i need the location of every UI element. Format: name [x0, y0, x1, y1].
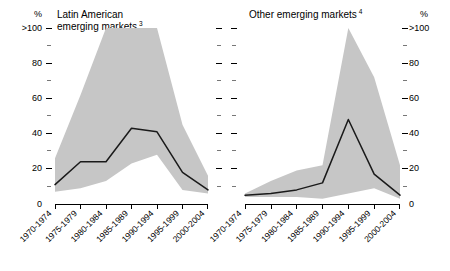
right-plot-area [245, 28, 400, 199]
right-axis-unit: % [420, 9, 428, 19]
left-xtick-labels: 1970-1974 1975-1979 1980-1984 1985-1989 … [18, 208, 207, 244]
left-ytick-40: 40 [32, 128, 42, 138]
left-ytick-60: 60 [32, 93, 42, 103]
left-range-band [55, 28, 208, 193]
right-ytick-80: 80 [409, 58, 419, 68]
left-ytick-20: 20 [32, 163, 42, 173]
left-axis-unit: % [34, 9, 42, 19]
right-ytick-gt100: >100 [409, 23, 429, 33]
right-ytick-marks [402, 28, 408, 186]
right-ytick-40: 40 [409, 128, 419, 138]
panel-left-title-footnote: 3 [139, 20, 143, 27]
right-panel-inner-ticks [231, 28, 237, 186]
left-ytick-0: 0 [37, 199, 42, 209]
panel-left-title-line1: Latin American [57, 9, 123, 20]
panel-left-title: Latin American [57, 9, 123, 20]
right-ytick-20: 20 [409, 163, 419, 173]
panel-right-title: Other emerging markets4 [249, 8, 363, 20]
right-ytick-60: 60 [409, 93, 419, 103]
panel-right-title-text: Other emerging markets [249, 9, 357, 20]
right-range-band [245, 28, 400, 199]
panel-right-title-footnote: 4 [359, 8, 363, 15]
left-ytick-gt100: >100 [22, 23, 42, 33]
left-plot-area [55, 28, 208, 193]
right-ytick-0: 0 [409, 199, 414, 209]
left-ytick-marks [46, 28, 52, 186]
right-xtick-labels: 1970-1974 1975-1979 1980-1984 1985-1989 … [208, 208, 399, 244]
chart-svg: % Latin American emerging markets3 >100 … [0, 0, 450, 271]
panel-right: % Other emerging markets4 >100 80 60 40 … [208, 8, 430, 244]
left-panel-inner-ticks [216, 28, 222, 186]
panel-left: % Latin American emerging markets3 >100 … [18, 9, 222, 244]
left-ytick-80: 80 [32, 58, 42, 68]
chart-figure: % Latin American emerging markets3 >100 … [0, 0, 450, 271]
